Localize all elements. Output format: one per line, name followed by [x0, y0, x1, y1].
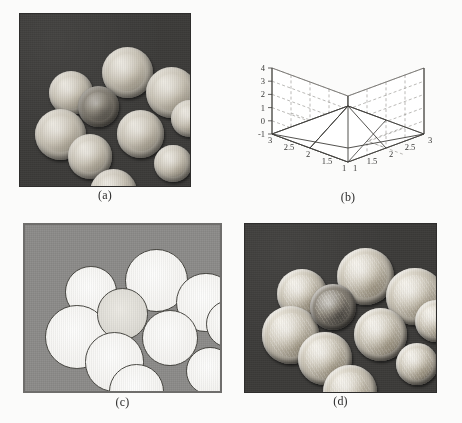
coin-relief: [84, 92, 113, 121]
coin-relief: [160, 150, 187, 177]
z-tick-neg1: -1: [258, 129, 265, 139]
x-tick-2p5: 2.5: [284, 142, 295, 152]
panel-c-image: [23, 223, 222, 393]
coin-relief: [420, 305, 436, 337]
z-tick-3: 3: [261, 76, 265, 86]
coin-segmented: [186, 347, 222, 393]
coin-original: [78, 86, 119, 127]
y-tick-2: 2: [389, 149, 393, 159]
x-tick-1p5: 1.5: [322, 156, 333, 166]
coin-relief: [360, 314, 401, 355]
panel-c: (c): [23, 223, 222, 413]
y-tick-1p5: 1.5: [367, 156, 378, 166]
y-tick-3: 3: [428, 135, 432, 145]
z-tick-4: 4: [261, 63, 266, 73]
panel-b-caption: (b): [250, 190, 446, 205]
coin-relief: [74, 141, 106, 173]
plot-z-ticks: 4 3 2 1 0 -1: [258, 63, 272, 139]
coin-enhanced: [396, 343, 436, 385]
panel-a: (a): [20, 14, 190, 204]
panel-a-image: [20, 14, 190, 186]
coin-original: [154, 145, 190, 182]
z-tick-2: 2: [261, 89, 265, 99]
x-tick-1: 1: [342, 163, 346, 173]
panel-d-caption: (d): [245, 394, 436, 409]
panel-a-caption: (a): [20, 188, 190, 203]
panel-b: 4 3 2 1 0 -1 3 2.5 2 1.5 1 1 1.5 2 2.5: [250, 40, 446, 210]
x-tick-3: 3: [268, 135, 272, 145]
figure-container: (a): [0, 0, 462, 423]
panel-d: (d): [245, 224, 436, 414]
coin-segmented: [97, 288, 149, 340]
x-tick-2: 2: [306, 149, 310, 159]
coin-enhanced: [310, 284, 356, 330]
coin-relief: [330, 372, 371, 392]
coin-relief: [177, 105, 190, 132]
y-tick-2p5: 2.5: [405, 142, 416, 152]
z-tick-0: 0: [261, 116, 265, 126]
y-tick-1: 1: [353, 163, 357, 173]
z-tick-1: 1: [261, 103, 265, 113]
coin-relief: [96, 175, 130, 186]
coin-relief: [315, 290, 350, 325]
coin-relief: [109, 54, 146, 91]
surface-plot: 4 3 2 1 0 -1 3 2.5 2 1.5 1 1 1.5 2 2.5: [250, 40, 446, 190]
panel-c-caption: (c): [23, 395, 222, 410]
coin-relief: [124, 117, 158, 151]
coin-relief: [401, 348, 433, 380]
panel-d-image: [245, 224, 436, 392]
